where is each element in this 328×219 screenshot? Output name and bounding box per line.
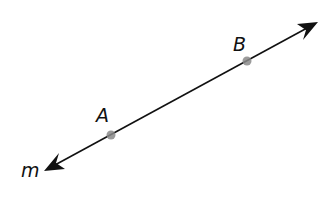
label-a: A — [94, 104, 109, 126]
point-b — [243, 57, 252, 66]
label-b: B — [233, 33, 246, 55]
line-diagram: A B m — [0, 0, 328, 219]
label-m: m — [21, 159, 40, 181]
diagram-canvas: A B m — [0, 0, 328, 219]
line-m — [54, 28, 308, 166]
point-a — [107, 131, 116, 140]
